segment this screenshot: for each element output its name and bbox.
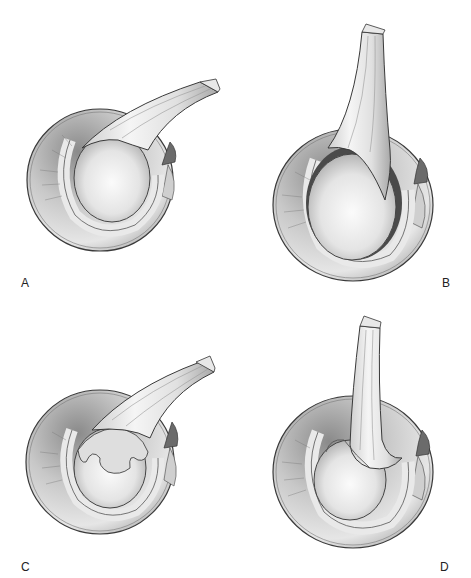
panel-a-drawing xyxy=(0,0,240,300)
panel-d-drawing xyxy=(240,290,471,578)
anatomical-illustration-figure: A B xyxy=(0,0,471,578)
panel-b: B xyxy=(240,0,471,300)
panel-b-drawing xyxy=(240,0,471,300)
panel-label-c: C xyxy=(21,561,30,573)
panel-label-d: D xyxy=(440,561,449,573)
panel-d: D xyxy=(240,290,471,578)
panel-a: A xyxy=(0,0,240,300)
panel-label-a: A xyxy=(21,277,29,289)
panel-label-b: B xyxy=(442,277,450,289)
panel-c: C xyxy=(0,290,240,578)
panel-c-drawing xyxy=(0,290,240,578)
